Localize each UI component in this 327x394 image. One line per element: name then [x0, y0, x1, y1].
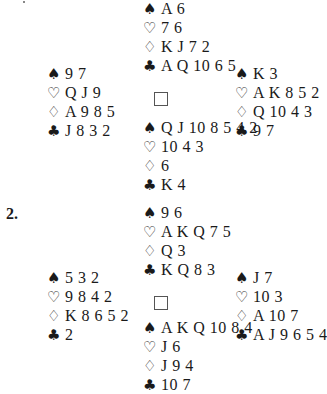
spade-icon: ♠	[143, 319, 161, 338]
club-icon: ♣	[143, 261, 161, 280]
spade-icon: ♠	[143, 119, 161, 138]
spade-icon: ♠	[143, 0, 161, 19]
deal-number: 2.	[6, 205, 18, 223]
heart-icon: ♡	[235, 288, 253, 307]
east-spades: ♠K 3	[235, 64, 320, 83]
north-hearts: ♡A K Q 7 5	[143, 222, 231, 241]
south-spades: ♠Q J 10 8 5 4 2	[143, 118, 258, 137]
west-spades: ♠5 3 2	[47, 268, 129, 287]
heart-icon: ♡	[47, 288, 65, 307]
south-diamonds: ♢J 9 4	[143, 356, 253, 375]
north-spades: ♠A 6	[143, 0, 236, 18]
deal-2-north-hand: ♠9 6 ♡A K Q 7 5 ♢Q 3 ♣K Q 8 3	[143, 203, 231, 279]
deal-1-south-hand: ♠Q J 10 8 5 4 2 ♡10 4 3 ♢6 ♣K 4	[143, 118, 258, 194]
north-clubs: ♣A Q 10 6 5	[143, 56, 236, 75]
deal-1-west-hand: ♠9 7 ♡Q J 9 ♢A 9 8 5 ♣J 8 3 2	[47, 64, 115, 140]
north-diamonds: ♢K J 7 2	[143, 37, 236, 56]
west-spades: ♠9 7	[47, 64, 115, 83]
west-hearts: ♡9 8 4 2	[47, 287, 129, 306]
south-spades: ♠A K Q 10 8 4	[143, 318, 253, 337]
deal-2-west-hand: ♠5 3 2 ♡9 8 4 2 ♢K 8 6 5 2 ♣2	[47, 268, 129, 344]
west-diamonds: ♢A 9 8 5	[47, 102, 115, 121]
north-clubs: ♣K Q 8 3	[143, 260, 231, 279]
club-icon: ♣	[47, 326, 65, 345]
south-clubs: ♣10 7	[143, 375, 253, 394]
table-square	[154, 92, 168, 106]
spade-icon: ♠	[235, 65, 253, 84]
west-hearts: ♡Q J 9	[47, 83, 115, 102]
heart-icon: ♡	[143, 223, 161, 242]
east-hearts: ♡10 3	[235, 287, 327, 306]
south-hearts: ♡10 4 3	[143, 137, 258, 156]
heart-icon: ♡	[143, 138, 161, 157]
diamond-icon: ♢	[143, 242, 161, 261]
club-icon: ♣	[143, 376, 161, 394]
club-icon: ♣	[47, 122, 65, 141]
north-diamonds: ♢Q 3	[143, 241, 231, 260]
west-clubs: ♣J 8 3 2	[47, 121, 115, 140]
heart-icon: ♡	[143, 338, 161, 357]
north-hearts: ♡7 6	[143, 18, 236, 37]
south-diamonds: ♢6	[143, 156, 258, 175]
club-icon: ♣	[143, 57, 161, 76]
deal-1-north-hand: ♠A 6 ♡7 6 ♢K J 7 2 ♣A Q 10 6 5	[143, 0, 236, 75]
spade-icon: ♠	[143, 204, 161, 223]
stray-mark	[23, 1, 25, 3]
heart-icon: ♡	[143, 19, 161, 38]
club-icon: ♣	[143, 176, 161, 195]
spade-icon: ♠	[47, 65, 65, 84]
deal-2-south-hand: ♠A K Q 10 8 4 ♡J 6 ♢J 9 4 ♣10 7	[143, 318, 253, 394]
south-clubs: ♣K 4	[143, 175, 258, 194]
east-spades: ♠J 7	[235, 268, 327, 287]
spade-icon: ♠	[235, 269, 253, 288]
west-diamonds: ♢K 8 6 5 2	[47, 306, 129, 325]
north-spades: ♠9 6	[143, 203, 231, 222]
diamond-icon: ♢	[143, 357, 161, 376]
spade-icon: ♠	[47, 269, 65, 288]
east-hearts: ♡A K 8 5 2	[235, 83, 320, 102]
west-clubs: ♣2	[47, 325, 129, 344]
diamond-icon: ♢	[47, 103, 65, 122]
diamond-icon: ♢	[143, 38, 161, 57]
south-hearts: ♡J 6	[143, 337, 253, 356]
table-square	[154, 296, 168, 310]
heart-icon: ♡	[47, 84, 65, 103]
heart-icon: ♡	[235, 84, 253, 103]
diamond-icon: ♢	[47, 307, 65, 326]
diamond-icon: ♢	[143, 157, 161, 176]
